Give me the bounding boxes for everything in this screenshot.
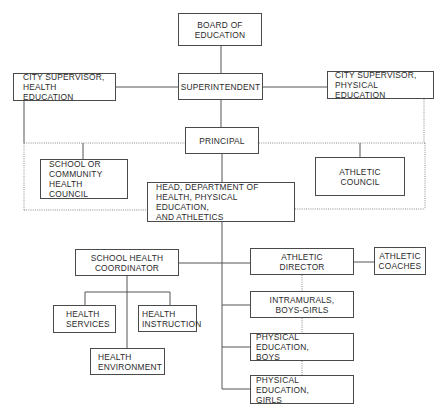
- pe-girls-box: PHYSICAL EDUCATION, GIRLS: [250, 375, 354, 404]
- health-council-box: SCHOOL OR COMMUNITY HEALTH COUNCIL: [40, 159, 128, 199]
- athletic-council-box: ATHLETIC COUNCIL: [315, 157, 405, 196]
- intramurals-box: INTRAMURALS, BOYS-GIRLS: [250, 291, 354, 318]
- head-department-box: HEAD, DEPARTMENT OF HEALTH, PHYSICAL EDU…: [147, 182, 295, 222]
- athletic-director-box: ATHLETIC DIRECTOR: [250, 248, 354, 275]
- principal-box: PRINCIPAL: [185, 127, 259, 154]
- city-supervisor-pe-box: CITY SUPERVISOR, PHYSICAL EDUCATION: [327, 71, 434, 99]
- school-health-coordinator-box: SCHOOL HEALTH COORDINATOR: [75, 249, 179, 276]
- health-services-box: HEALTH SERVICES: [53, 305, 116, 333]
- health-environment-box: HEALTH ENVIRONMENT: [90, 348, 165, 375]
- pe-boys-box: PHYSICAL EDUCATION, BOYS: [250, 333, 354, 361]
- superintendent-box: SUPERINTENDENT: [178, 73, 263, 100]
- board-of-education-box: BOARD OF EDUCATION: [178, 13, 262, 46]
- org-chart: BOARD OF EDUCATION SUPERINTENDENT CITY S…: [0, 0, 446, 420]
- city-supervisor-health-box: CITY SUPERVISOR, HEALTH EDUCATION: [13, 73, 116, 101]
- health-instruction-box: HEALTH INSTRUCTION: [138, 305, 197, 332]
- athletic-coaches-box: ATHLETIC COACHES: [374, 247, 426, 275]
